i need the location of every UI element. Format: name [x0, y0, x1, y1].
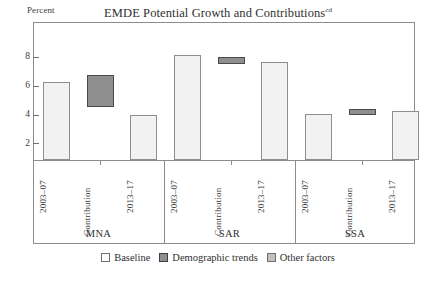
x-axis-baseline — [33, 160, 415, 161]
y-tick-label-6: 6 — [6, 80, 30, 90]
bar-sar-contribution[interactable] — [218, 57, 245, 64]
legend-label-other-factors: Other factors — [280, 252, 335, 263]
x-tick-mna-contribution — [100, 160, 101, 165]
chart-legend: Baseline Demographic trends Other factor… — [0, 252, 436, 263]
legend-item-other-factors[interactable]: Other factors — [267, 252, 335, 263]
bar-sar-2003-07[interactable] — [174, 55, 201, 160]
x-label-mna-2003-07: 2003–07 — [38, 180, 48, 213]
chart-canvas: Percent EMDE Potential Growth and Contri… — [0, 0, 436, 281]
x-tick-ssa-contribution — [362, 160, 363, 165]
plot-area — [34, 23, 414, 160]
group-label-sar: SAR — [164, 228, 295, 239]
legend-swatch-baseline-icon — [101, 253, 110, 262]
legend-swatch-demographic-trends-icon — [159, 253, 168, 262]
x-tick-sar-contribution — [231, 160, 232, 165]
bar-sar-2013-17[interactable] — [261, 62, 288, 160]
legend-item-baseline[interactable]: Baseline — [101, 252, 150, 263]
legend-swatch-other-factors-icon — [267, 253, 276, 262]
chart-title-superscript: cd — [325, 6, 332, 14]
x-label-sar-2013-17: 2013–17 — [256, 180, 266, 213]
chart-title-text: EMDE Potential Growth and Contributions — [104, 6, 325, 20]
bar-ssa-2003-07[interactable] — [305, 114, 332, 160]
bar-ssa-2013-17[interactable] — [392, 111, 419, 160]
bar-ssa-contribution[interactable] — [349, 109, 376, 115]
x-label-ssa-2013-17: 2013–17 — [387, 180, 397, 213]
y-axis-labels: 8 6 4 2 — [2, 0, 30, 281]
legend-item-demographic-trends[interactable]: Demographic trends — [159, 252, 257, 263]
bar-mna-2013-17[interactable] — [130, 115, 157, 160]
x-label-ssa-2003-07: 2003–07 — [300, 180, 310, 213]
x-label-sar-2003-07: 2003–07 — [169, 180, 179, 213]
bar-mna-contribution[interactable] — [87, 75, 114, 107]
group-label-mna: MNA — [33, 228, 164, 239]
group-label-ssa: SSA — [295, 228, 415, 239]
legend-label-demographic-trends: Demographic trends — [172, 252, 257, 263]
legend-label-baseline: Baseline — [114, 252, 150, 263]
y-tick-label-4: 4 — [6, 109, 30, 119]
bar-mna-2003-07[interactable] — [43, 82, 70, 160]
chart-title: EMDE Potential Growth and Contributionsc… — [0, 6, 436, 21]
y-tick-label-2: 2 — [6, 138, 30, 148]
x-label-mna-2013-17: 2013–17 — [125, 180, 135, 213]
y-tick-label-8: 8 — [6, 51, 30, 61]
